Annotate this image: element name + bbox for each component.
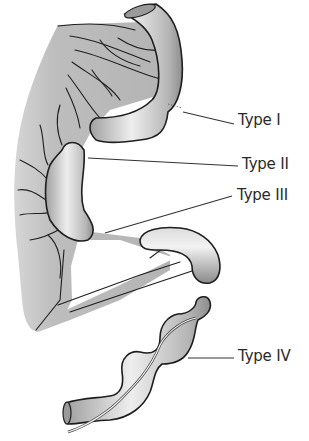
label-type-3: Type III bbox=[237, 188, 288, 203]
label-type-1: Type I bbox=[238, 113, 280, 128]
label-type-2: Type II bbox=[242, 157, 289, 172]
leader-type-1 bbox=[183, 112, 234, 124]
mesentery bbox=[14, 22, 175, 332]
bowel-type-4 bbox=[63, 297, 210, 432]
diagram-illustration bbox=[0, 0, 309, 441]
bowel-types-diagram: Type I Type II Type III Type IV bbox=[0, 0, 309, 441]
leader-type-2 bbox=[88, 158, 238, 166]
label-type-4: Type IV bbox=[238, 349, 291, 364]
